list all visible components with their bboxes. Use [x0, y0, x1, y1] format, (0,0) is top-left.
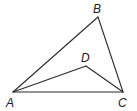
label-b: B: [93, 2, 101, 16]
triangle-diagram: A B C D: [0, 0, 137, 111]
segment-ad: [13, 66, 86, 92]
label-d: D: [81, 51, 90, 65]
label-c: C: [118, 96, 127, 110]
segment-dc: [86, 66, 123, 92]
label-a: A: [5, 96, 14, 110]
segment-bc: [98, 17, 123, 92]
